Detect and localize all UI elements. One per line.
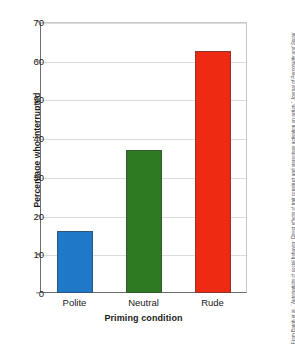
gridline xyxy=(41,23,246,24)
credit-line-2-pre: activation on action,” xyxy=(291,100,295,144)
y-tick-mark xyxy=(36,21,40,22)
y-tick-mark xyxy=(36,60,40,61)
x-axis-title: Priming condition xyxy=(40,313,247,323)
bar-chart-figure: Percentage who interrupted 0102030405060… xyxy=(0,0,295,346)
y-tick-mark xyxy=(36,99,40,100)
y-tick-mark xyxy=(36,254,40,255)
y-tick-mark xyxy=(36,292,40,293)
y-tick-mark xyxy=(36,176,40,177)
x-tick-label-polite: Polite xyxy=(63,297,87,308)
bar-neutral xyxy=(126,150,162,293)
y-tick-mark xyxy=(36,215,40,216)
y-tick-mark xyxy=(36,137,40,138)
x-tick-label-rude: Rude xyxy=(201,297,224,308)
source-credit: From Bargh et al., “Automaticity of soci… xyxy=(252,0,292,346)
bar-polite xyxy=(57,231,93,293)
bar-rude xyxy=(195,51,231,293)
credit-line-1: From Bargh et al., “Automaticity of soci… xyxy=(291,145,295,344)
x-tick-label-neutral: Neutral xyxy=(128,297,159,308)
